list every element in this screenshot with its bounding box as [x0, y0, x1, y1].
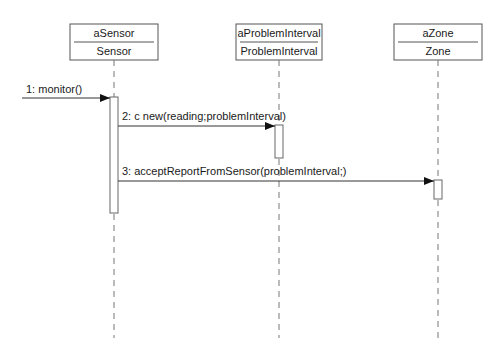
participant-class-label: Sensor — [97, 45, 132, 57]
participant-class-label: Zone — [425, 45, 450, 57]
participant-instance-label: aZone — [422, 27, 453, 39]
activation-azone — [434, 180, 442, 199]
participant-asensor[interactable]: aSensor Sensor — [70, 24, 158, 60]
message-label: 2: c new(reading;problemInterval) — [122, 110, 286, 122]
participant-instance-label: aProblemInterval — [237, 27, 320, 39]
participant-azone[interactable]: aZone Zone — [394, 24, 482, 60]
message-accept-report[interactable]: 3: acceptReportFromSensor(problemInterva… — [118, 165, 434, 181]
message-new-problem-interval[interactable]: 2: c new(reading;problemInterval) — [118, 110, 286, 126]
participant-instance-label: aSensor — [94, 27, 135, 39]
message-label: 1: monitor() — [26, 83, 82, 95]
activation-asensor — [110, 97, 118, 213]
message-label: 3: acceptReportFromSensor(problemInterva… — [122, 165, 346, 177]
participant-aprobleminterval[interactable]: aProblemInterval ProblemInterval — [236, 24, 322, 60]
participant-class-label: ProblemInterval — [240, 45, 317, 57]
activation-aprobleminterval — [275, 125, 283, 158]
sequence-diagram: aSensor Sensor aProblemInterval ProblemI… — [0, 0, 501, 349]
message-monitor[interactable]: 1: monitor() — [22, 83, 110, 98]
